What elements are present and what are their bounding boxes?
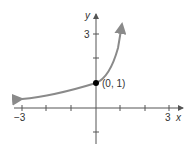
y-tick-label-3: 3 bbox=[84, 29, 90, 40]
point-marker bbox=[93, 80, 99, 86]
x-tick-label-3: 3 bbox=[165, 112, 171, 123]
x-axis-label: x bbox=[175, 112, 182, 123]
y-axis-label: y bbox=[84, 10, 91, 21]
exponential-graph: y 3 (0, 1) −3 3 x bbox=[0, 0, 191, 144]
x-tick-label-neg3: −3 bbox=[14, 112, 26, 123]
point-label: (0, 1) bbox=[102, 78, 125, 89]
